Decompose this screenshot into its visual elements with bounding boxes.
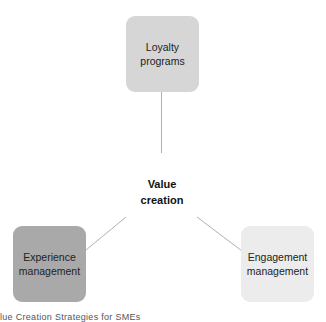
node-label-line1: Experience [19,250,80,264]
node-engagement-management: Engagement management [241,226,314,302]
node-label-line1: Engagement [247,250,308,264]
node-label-line1: Loyalty [140,40,184,54]
figure-caption: lue Creation Strategies for SMEs [0,312,141,322]
connector-left [86,217,126,250]
center-label-line2: creation [112,192,212,208]
node-experience-management: Experience management [13,226,86,302]
center-label-line1: Value [112,176,212,192]
node-label: Loyalty programs [140,40,184,68]
node-label-line2: management [19,264,80,278]
center-label-value-creation: Value creation [112,176,212,208]
node-loyalty-programs: Loyalty programs [126,16,199,92]
node-label: Engagement management [247,250,308,278]
node-label-line2: programs [140,54,184,68]
node-label: Experience management [19,250,80,278]
connector-right [197,217,242,251]
node-label-line2: management [247,264,308,278]
